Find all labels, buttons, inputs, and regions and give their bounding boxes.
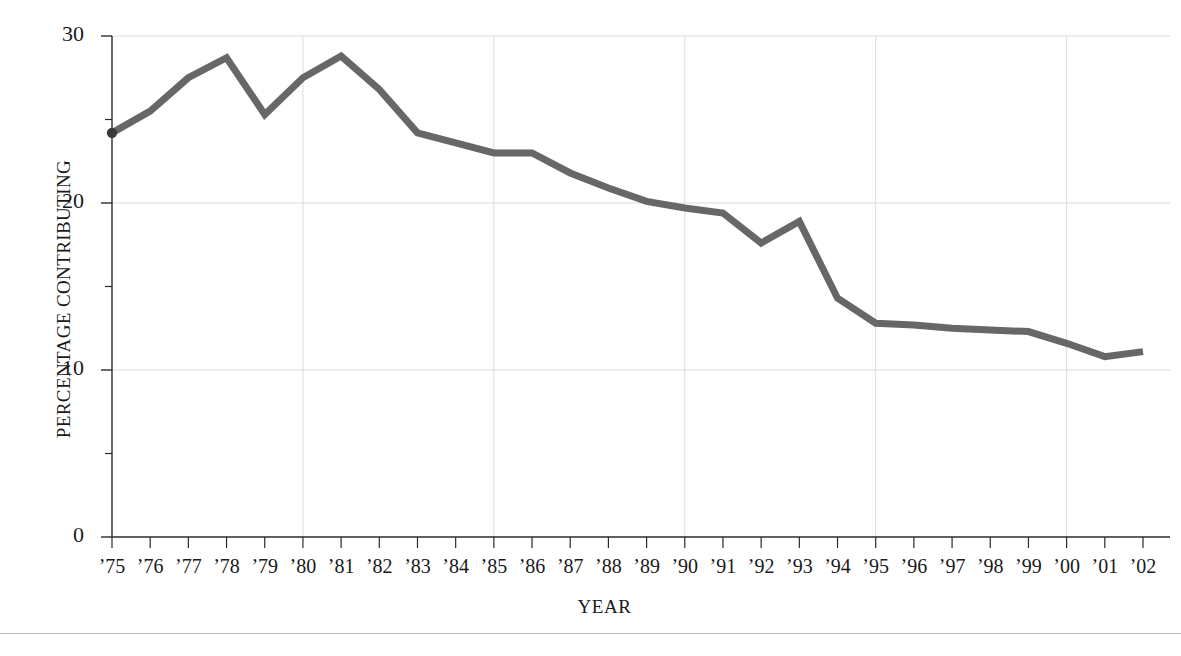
x-axis-title-text: YEAR: [577, 596, 631, 618]
bottom-divider: [0, 633, 1181, 634]
x-tick-labels: ’75’76’77’78’79’80’81’82’83’84’85’86’87’…: [0, 0, 1181, 656]
chart-figure: PERCENTAGE CONTRIBUTING 0102030 ’75’76’7…: [0, 0, 1181, 656]
x-tick-label: ’02: [1116, 556, 1170, 576]
x-axis-title: YEAR: [0, 596, 1181, 618]
